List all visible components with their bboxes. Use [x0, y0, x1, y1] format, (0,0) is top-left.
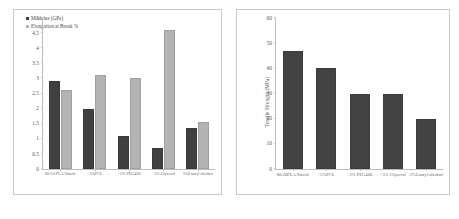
plot-area-left: 80:20 PLA/Starch+5%PCL+5% PEG400+5% Glyc… [42, 18, 215, 170]
y-tick-mark [41, 123, 43, 124]
y-tick-mark [274, 42, 276, 43]
y-tick-mark [41, 168, 43, 169]
x-tick-mark [163, 169, 164, 171]
bar-group [112, 18, 146, 169]
x-tick-label: +5% Glycerol [146, 172, 180, 177]
y-tick-mark [274, 17, 276, 18]
bar [198, 122, 209, 169]
y-tick-mark [274, 93, 276, 94]
bar [61, 90, 72, 169]
chart-panel-right: Tensile Strength (MPa) 80:20PLA/Starch+5… [236, 9, 450, 195]
bar-group [410, 18, 443, 169]
y-tick-mark [274, 118, 276, 119]
bar [283, 51, 303, 169]
x-tick-label: +5% Glycerol [376, 172, 409, 177]
x-tick-mark [293, 169, 294, 171]
chart-panel-left: Modulus (GPa) Elongation at Break % 80:2… [13, 9, 222, 195]
plot-area-right: 80:20PLA/Starch+5%PCL+5% PEG400+5% Glyce… [275, 18, 443, 170]
x-tick-label: 80:20PLA/Starch [276, 172, 309, 177]
bar-group [77, 18, 111, 169]
figure-container: Modulus (GPa) Elongation at Break % 80:2… [0, 0, 459, 219]
y-tick-mark [41, 138, 43, 139]
x-axis-labels-right: 80:20PLA/Starch+5%PCL+5% PEG400+5% Glyce… [276, 169, 443, 177]
y-tick-mark [41, 32, 43, 33]
x-tick-label: +5% PEG400 [343, 172, 376, 177]
y-tick-mark [41, 153, 43, 154]
bar-group [276, 18, 309, 169]
bar [383, 94, 403, 170]
x-tick-label: +5%PCL [309, 172, 342, 177]
x-tick-label: +5%PCL [77, 172, 111, 177]
bar [95, 75, 106, 169]
bar [186, 128, 197, 169]
x-tick-mark [393, 169, 394, 171]
bar-group [181, 18, 215, 169]
y-tick-mark [41, 17, 43, 18]
y-tick-mark [274, 67, 276, 68]
bar-groups-left [43, 18, 215, 169]
x-tick-mark [95, 169, 96, 171]
x-tick-mark [60, 169, 61, 171]
bar-group [309, 18, 342, 169]
bar [164, 30, 175, 169]
y-tick-mark [274, 168, 276, 169]
bar [118, 136, 129, 169]
bar-group [376, 18, 409, 169]
x-axis-labels-left: 80:20 PLA/Starch+5%PCL+5% PEG400+5% Glyc… [43, 169, 215, 177]
bar-group [146, 18, 180, 169]
y-tick-mark [41, 77, 43, 78]
x-tick-mark [198, 169, 199, 171]
x-tick-label: 5%Lauryl alcohol [181, 172, 215, 177]
y-tick-mark [274, 143, 276, 144]
bar [316, 68, 336, 169]
bar [152, 148, 163, 169]
x-tick-label: 80:20 PLA/Starch [43, 172, 77, 177]
x-tick-label: 5%Lauryl alcohol [410, 172, 443, 177]
y-tick-mark [41, 93, 43, 94]
bar [130, 78, 141, 169]
bar [350, 94, 370, 170]
bar [83, 109, 94, 169]
bar-groups-right [276, 18, 443, 169]
x-tick-mark [360, 169, 361, 171]
x-tick-mark [426, 169, 427, 171]
bar-group [343, 18, 376, 169]
x-tick-label: +5% PEG400 [112, 172, 146, 177]
y-tick-mark [41, 62, 43, 63]
bar-group [43, 18, 77, 169]
legend-swatch-modulus [26, 17, 29, 20]
y-tick-mark [41, 108, 43, 109]
x-tick-mark [326, 169, 327, 171]
x-tick-mark [129, 169, 130, 171]
bar [49, 81, 60, 169]
legend-swatch-elongation [26, 25, 29, 28]
bar [416, 119, 436, 169]
y-tick-mark [41, 47, 43, 48]
